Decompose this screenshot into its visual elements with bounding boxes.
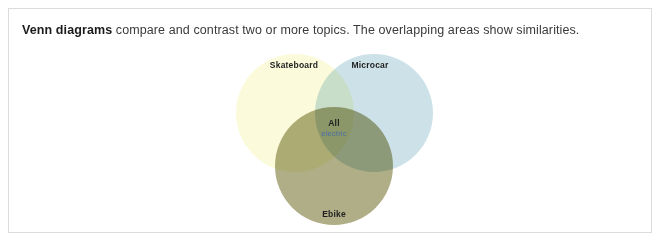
venn-label-skateboard: Skateboard	[261, 60, 327, 70]
caption-lead-text: Venn diagrams	[22, 23, 112, 37]
venn-figure-card: Venn diagrams compare and contrast two o…	[8, 8, 652, 233]
figure-caption: Venn diagrams compare and contrast two o…	[22, 22, 634, 38]
venn-label-ebike: Ebike	[304, 209, 364, 219]
venn-label-intersection-all: All electric	[304, 118, 364, 138]
caption-body-text: compare and contrast two or more topics.…	[112, 23, 579, 37]
venn-diagram: Skateboard Microcar Ebike All electric	[227, 45, 442, 233]
venn-intersection-subtitle: electric	[304, 129, 364, 138]
venn-label-microcar: Microcar	[339, 60, 401, 70]
venn-intersection-title: All	[304, 118, 364, 128]
